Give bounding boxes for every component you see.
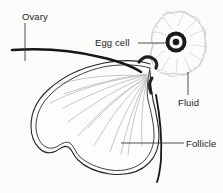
label-ovary: Ovary [22,11,48,22]
label-fluid: Fluid [178,97,199,108]
ovary-follicle-diagram: Ovary Egg cell Fluid Follicle [0,0,223,193]
egg-cell [166,32,187,53]
label-follicle: Follicle [186,138,216,149]
label-egg-cell: Egg cell [95,37,130,48]
